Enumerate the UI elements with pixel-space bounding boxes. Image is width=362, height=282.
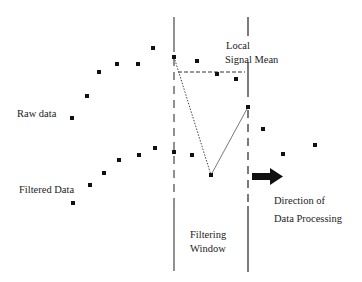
raw-data-point bbox=[172, 55, 176, 59]
filtered-data-point bbox=[137, 153, 141, 157]
raw-data-point bbox=[313, 143, 317, 147]
local-signal-mean-label-line1: Local bbox=[226, 39, 250, 52]
solid-connector-line bbox=[211, 107, 248, 175]
filtered-data-point bbox=[71, 201, 75, 205]
raw-data-points bbox=[70, 46, 317, 156]
filtering-window-label-line2: Window bbox=[190, 242, 226, 255]
raw-data-point bbox=[115, 62, 119, 66]
filtered-data-point bbox=[172, 150, 176, 154]
raw-data-point bbox=[195, 59, 199, 63]
raw-data-point bbox=[246, 105, 250, 109]
direction-label-line1: Direction of bbox=[274, 194, 325, 207]
filtered-data-point bbox=[153, 146, 157, 150]
raw-data-point bbox=[85, 94, 89, 98]
filtered-data-point bbox=[102, 171, 106, 175]
filtered-data-point bbox=[190, 153, 194, 157]
raw-data-point bbox=[281, 152, 285, 156]
moving-average-filter-diagram: Raw data Filtered Data Local Signal Mean… bbox=[0, 0, 362, 282]
filtered-data-point bbox=[209, 173, 213, 177]
raw-data-point bbox=[215, 72, 219, 76]
raw-data-point bbox=[261, 127, 265, 131]
diagram-canvas bbox=[0, 0, 362, 282]
local-signal-mean-label-line2: Signal Mean bbox=[225, 53, 278, 66]
direction-label-line2: Data Processing bbox=[274, 212, 342, 225]
direction-arrow-icon bbox=[252, 168, 283, 185]
raw-data-point bbox=[151, 46, 155, 50]
raw-data-point bbox=[136, 62, 140, 66]
raw-data-point bbox=[234, 77, 238, 81]
raw-data-point bbox=[70, 116, 74, 120]
dotted-connector-line bbox=[174, 57, 211, 175]
raw-data-point bbox=[97, 70, 101, 74]
filtered-data-point bbox=[117, 158, 121, 162]
filtering-window-label-line1: Filtering bbox=[190, 228, 226, 241]
raw-data-label: Raw data bbox=[17, 107, 56, 120]
filtered-data-points bbox=[71, 146, 213, 205]
filtered-data-point bbox=[88, 183, 92, 187]
filtered-data-label: Filtered Data bbox=[19, 183, 74, 196]
